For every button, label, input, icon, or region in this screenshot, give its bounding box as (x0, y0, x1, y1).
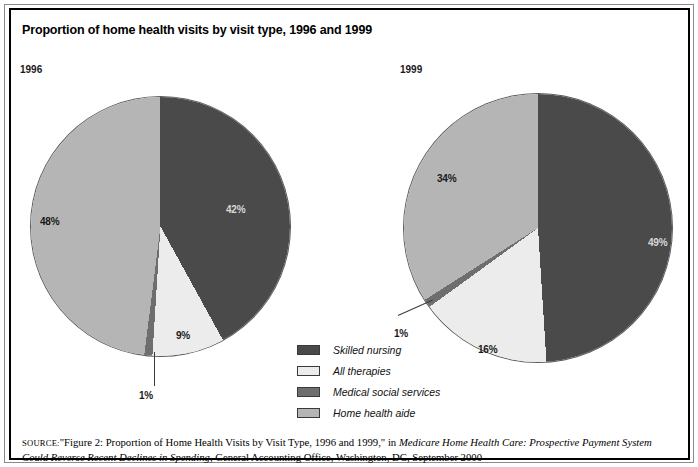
pie-chart-1996 (31, 97, 290, 356)
legend-swatch-medical-social-services (297, 387, 320, 397)
pie-chart-1999 (404, 94, 672, 362)
slice-label-1999-all-therapies: 16% (478, 344, 497, 355)
legend-swatch-home-health-aide (297, 408, 320, 418)
source-prefix: SOURCE: (22, 438, 60, 448)
panel-year-1999: 1999 (400, 64, 422, 75)
slice-label-1999-medical-social-services: 1% (394, 328, 408, 339)
slice-label-1996-skilled-nursing: 42% (226, 204, 245, 215)
slice-label-1996-home-health-aide: 48% (40, 216, 59, 227)
legend: Skilled nursing All therapies Medical so… (297, 341, 440, 425)
figure-container: Proportion of home health visits by visi… (0, 0, 698, 467)
slice-label-1996-medical-social-services: 1% (139, 390, 153, 401)
legend-item: Home health aide (297, 404, 440, 421)
legend-label-medical-social-services: Medical social services (333, 386, 440, 398)
source-note: SOURCE:"Figure 2: Proportion of Home Hea… (22, 435, 672, 464)
slice-label-1999-home-health-aide: 34% (437, 173, 456, 184)
legend-item: Skilled nursing (297, 341, 440, 358)
panel-year-1996: 1996 (20, 64, 42, 75)
legend-item: Medical social services (297, 383, 440, 400)
callout-leader-line-1996 (154, 352, 155, 386)
slice-label-1999-skilled-nursing: 49% (648, 237, 667, 248)
source-text-part-1: "Figure 2: Proportion of Home Health Vis… (60, 436, 399, 448)
legend-swatch-skilled-nursing (297, 345, 320, 355)
slice-label-1996-all-therapies: 9% (176, 330, 190, 341)
legend-swatch-all-therapies (297, 366, 320, 376)
legend-label-skilled-nursing: Skilled nursing (333, 344, 401, 356)
source-text-part-2: , General Accounting Office, Washington,… (210, 451, 482, 463)
legend-item: All therapies (297, 362, 440, 379)
legend-label-home-health-aide: Home health aide (333, 407, 415, 419)
figure-title: Proportion of home health visits by visi… (22, 23, 372, 37)
legend-label-all-therapies: All therapies (333, 365, 391, 377)
